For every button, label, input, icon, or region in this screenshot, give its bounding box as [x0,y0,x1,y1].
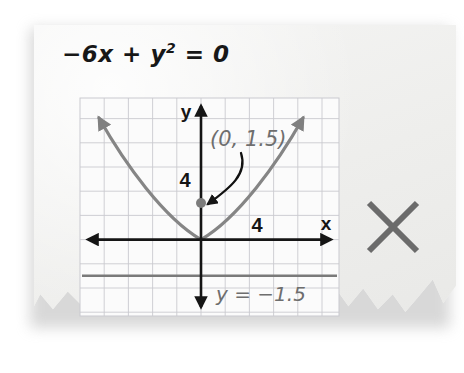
equation-exponent: 2 [166,40,176,56]
x-axis-label: x [321,213,332,234]
y-axis-label: y [181,101,192,122]
parabola-graph: y x 4 4 (0, 1.5) y = −1.5 [78,96,341,318]
x-tick-label-4: 4 [251,214,263,236]
directrix-annotation: y = −1.5 [215,282,306,306]
focus-point-annotation: (0, 1.5) [210,127,287,151]
y-tick-label-4: 4 [179,169,191,191]
incorrect-x-mark [362,196,424,258]
worksheet-screenshot: −6x + y2 = 0 [0,0,464,373]
focus-point-dot [196,198,206,208]
equation-tail: = 0 [185,41,230,67]
equation-heading: −6x + y2 = 0 [62,40,229,67]
equation-lead: −6x + y [62,41,166,67]
